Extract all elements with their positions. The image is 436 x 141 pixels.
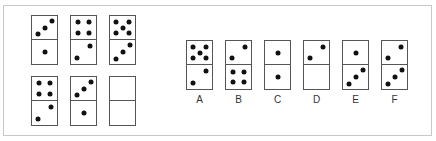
pip-icon: [114, 19, 119, 24]
domino-bottom-half: [343, 65, 368, 89]
grid-domino: [31, 76, 58, 126]
domino-bottom-half: [32, 101, 57, 125]
pip-icon: [87, 44, 92, 49]
pip-icon: [398, 44, 403, 49]
domino-bottom-half: [265, 65, 290, 89]
grid-domino: [70, 15, 97, 65]
pip-icon: [120, 25, 125, 30]
pip-icon: [37, 81, 42, 86]
pip-icon: [230, 56, 235, 61]
pip-icon: [203, 69, 208, 74]
pip-icon: [127, 43, 132, 48]
pip-icon: [392, 75, 397, 80]
domino-top-half: [265, 41, 290, 65]
pip-icon: [386, 56, 391, 61]
pip-icon: [242, 69, 247, 74]
pip-icon: [49, 19, 54, 24]
domino-top-half: [71, 77, 96, 101]
domino-top-half: [32, 77, 57, 101]
pip-icon: [74, 92, 79, 97]
domino-bottom-half: [304, 65, 329, 89]
pip-icon: [48, 105, 53, 110]
option-c-domino[interactable]: [264, 40, 291, 90]
domino-bottom-half: [32, 40, 57, 64]
option-label[interactable]: C: [264, 94, 291, 105]
option-a-domino[interactable]: [186, 40, 213, 90]
pip-icon: [353, 75, 358, 80]
pip-icon: [191, 56, 196, 61]
domino-bottom-half: [382, 65, 407, 89]
option-label[interactable]: F: [381, 94, 408, 105]
pip-icon: [360, 68, 365, 73]
domino-top-half: [382, 41, 407, 65]
pip-icon: [242, 80, 247, 85]
domino-bottom-half: [71, 40, 96, 64]
option-label[interactable]: B: [225, 94, 252, 105]
grid-domino: [109, 15, 136, 65]
option-e-domino[interactable]: [342, 40, 369, 90]
pip-icon: [399, 68, 404, 73]
pip-icon: [275, 75, 280, 80]
missing-domino: [109, 76, 136, 126]
pip-icon: [275, 50, 280, 55]
pip-icon: [385, 81, 390, 86]
pip-icon: [114, 31, 119, 36]
pip-icon: [120, 50, 125, 55]
option-label[interactable]: E: [342, 94, 369, 105]
option-b-domino[interactable]: [225, 40, 252, 90]
grid-domino: [70, 76, 97, 126]
pip-icon: [81, 86, 86, 91]
pip-icon: [48, 81, 53, 86]
pip-icon: [75, 56, 80, 61]
domino-top-half: [304, 41, 329, 65]
domino-top-half: [343, 41, 368, 65]
domino-top-half: [187, 41, 212, 65]
pip-icon: [308, 56, 313, 61]
pip-icon: [87, 20, 92, 25]
domino-bottom-half: [71, 101, 96, 125]
option-label[interactable]: A: [186, 94, 213, 105]
pip-icon: [87, 30, 92, 35]
pip-icon: [231, 80, 236, 85]
pip-icon: [242, 44, 247, 49]
pip-icon: [346, 81, 351, 86]
domino-bottom-half: [110, 40, 135, 64]
option-d-domino[interactable]: [303, 40, 330, 90]
domino-top-half: [32, 16, 57, 40]
domino-top-half: [226, 41, 251, 65]
pip-icon: [353, 50, 358, 55]
domino-bottom-half: [187, 65, 212, 89]
pip-icon: [81, 111, 86, 116]
domino-bottom-half: [110, 101, 135, 125]
domino-top-half: [110, 77, 135, 101]
pip-icon: [35, 31, 40, 36]
pip-icon: [203, 44, 208, 49]
pip-icon: [76, 20, 81, 25]
pip-icon: [42, 25, 47, 30]
pip-icon: [231, 69, 236, 74]
pip-icon: [191, 81, 196, 86]
domino-top-half: [110, 16, 135, 40]
domino-bottom-half: [226, 65, 251, 89]
pip-icon: [48, 91, 53, 96]
pip-icon: [76, 30, 81, 35]
pip-icon: [197, 50, 202, 55]
domino-top-half: [71, 16, 96, 40]
pip-icon: [42, 50, 47, 55]
pip-icon: [88, 80, 93, 85]
pip-icon: [126, 31, 131, 36]
pip-icon: [191, 44, 196, 49]
pip-icon: [320, 44, 325, 49]
grid-domino: [31, 15, 58, 65]
option-f-domino[interactable]: [381, 40, 408, 90]
pip-icon: [36, 117, 41, 122]
pip-icon: [37, 91, 42, 96]
pip-icon: [203, 56, 208, 61]
pip-icon: [126, 19, 131, 24]
option-label[interactable]: D: [303, 94, 330, 105]
pip-icon: [113, 56, 118, 61]
